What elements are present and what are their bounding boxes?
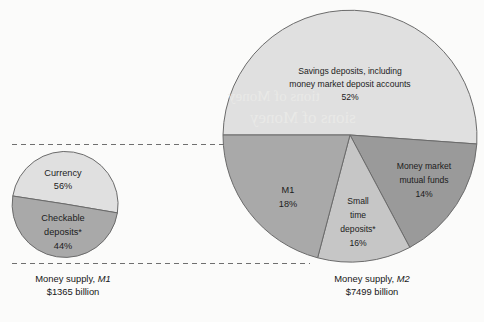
m2-label-savings-percent: 52% (341, 92, 359, 102)
m1-label-currency-percent: 56% (54, 181, 72, 191)
caption-m1-prefix: Money supply, (35, 273, 97, 284)
m1-label-checkable-percent: 44% (54, 241, 72, 251)
m1-label-currency: Currency (44, 168, 82, 178)
m2-label-savings-line1: Savings deposits, including (298, 66, 402, 76)
caption-m1-title-line: Money supply, M1 (8, 272, 138, 285)
caption-m2-symbol: M2 (397, 273, 410, 284)
m2-label-small-time-line1: Small (347, 196, 369, 206)
m1-label-checkable-line2: deposits* (44, 227, 82, 237)
caption-m1-symbol: M1 (98, 273, 111, 284)
m2-label-m1: M1 (282, 185, 295, 195)
m2-slice-savings-deposits[interactable] (223, 10, 477, 144)
caption-money-supply-m2: Money supply, M2 $7499 billion (288, 272, 456, 298)
m2-label-small-time-line3: deposits* (340, 224, 376, 234)
money-supply-pie-figure: tions of Money sions of Money Currency 5… (0, 0, 484, 322)
m2-label-mmmf-line2: mutual funds (399, 175, 448, 185)
m2-pie-chart: Savings deposits, including money market… (223, 10, 477, 262)
m1-pie-chart: Currency 56% Checkable deposits* 44% (12, 151, 118, 257)
caption-m2-amount: $7499 billion (288, 285, 456, 298)
m2-label-small-time-percent: 16% (349, 238, 367, 248)
m2-label-savings-line2: money market deposit accounts (289, 79, 410, 89)
m1-label-checkable-line1: Checkable (41, 213, 84, 223)
m2-label-mmmf-line1: Money market (397, 161, 452, 171)
caption-m2-prefix: Money supply, (334, 273, 396, 284)
m2-label-m1-percent: 18% (279, 199, 297, 209)
m2-label-small-time-line2: time (350, 210, 366, 220)
m2-label-mmmf-percent: 14% (415, 189, 433, 199)
caption-m2-title-line: Money supply, M2 (288, 272, 456, 285)
caption-money-supply-m1: Money supply, M1 $1365 billion (8, 272, 138, 298)
caption-m1-amount: $1365 billion (8, 285, 138, 298)
